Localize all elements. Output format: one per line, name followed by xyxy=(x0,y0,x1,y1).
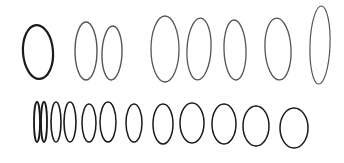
top-row-oval-1 xyxy=(21,24,55,80)
drawing-canvas xyxy=(0,0,344,163)
top-row-oval-2 xyxy=(75,22,97,80)
bottom-row xyxy=(34,102,308,148)
top-row-oval-4 xyxy=(151,16,179,82)
top-row-oval-3 xyxy=(101,26,123,81)
bottom-row-oval-10 xyxy=(212,104,236,144)
top-row-oval-7 xyxy=(263,17,292,80)
top-row-oval-5 xyxy=(185,17,212,80)
bottom-row-oval-9 xyxy=(180,103,204,143)
bottom-row-oval-2 xyxy=(41,102,47,142)
top-row-oval-8 xyxy=(309,6,332,85)
bottom-row-oval-7 xyxy=(126,104,142,142)
bottom-row-oval-3 xyxy=(51,102,61,142)
top-row xyxy=(21,6,331,85)
bottom-row-oval-1 xyxy=(34,102,40,142)
ovals-drawing xyxy=(0,0,344,163)
bottom-row-oval-6 xyxy=(100,102,116,142)
bottom-row-oval-11 xyxy=(243,106,269,146)
top-row-oval-6 xyxy=(223,20,247,81)
bottom-row-oval-4 xyxy=(64,102,76,142)
bottom-row-oval-5 xyxy=(82,104,96,142)
bottom-row-oval-8 xyxy=(153,104,173,144)
bottom-row-oval-12 xyxy=(280,108,308,148)
